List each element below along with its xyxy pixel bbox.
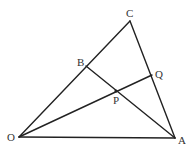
label-Q: Q xyxy=(155,68,163,80)
segment-OA xyxy=(19,137,175,138)
triangle-diagram: O A C B Q P xyxy=(0,0,186,150)
label-O: O xyxy=(7,131,15,143)
segment-OC xyxy=(19,21,130,137)
label-C: C xyxy=(126,7,133,19)
segment-OQ xyxy=(19,75,152,137)
label-P: P xyxy=(113,94,119,106)
point-P-dot xyxy=(114,89,117,92)
label-A: A xyxy=(178,134,186,146)
label-B: B xyxy=(77,56,84,68)
